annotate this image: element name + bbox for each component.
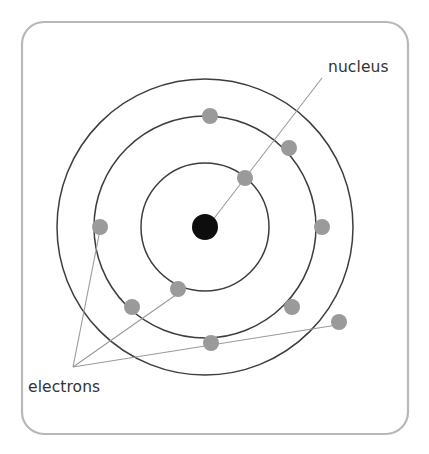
nucleus-leader-line	[212, 78, 322, 221]
atom-diagram-svg: nucleus electrons	[0, 0, 429, 454]
electron-dot	[92, 219, 108, 235]
electron-dot	[170, 281, 186, 297]
electrons-leader-line-1	[73, 230, 100, 367]
electron-dot	[314, 219, 330, 235]
atom-diagram-figure: nucleus electrons	[0, 0, 429, 454]
electron-dot	[202, 108, 218, 124]
electron-dot	[281, 140, 297, 156]
electron-dot	[124, 299, 140, 315]
electrons-label: electrons	[28, 378, 100, 396]
nucleus-label: nucleus	[328, 58, 389, 76]
nucleus-dot	[192, 214, 218, 240]
electron-dot	[284, 299, 300, 315]
electron-dot	[203, 335, 219, 351]
electron-dot	[331, 314, 347, 330]
electron-dot	[237, 170, 253, 186]
